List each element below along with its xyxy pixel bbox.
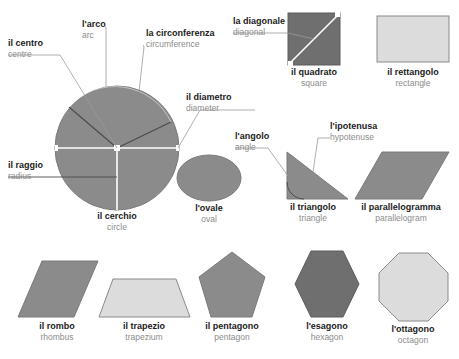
caption-trapezium-en: trapezium bbox=[123, 333, 165, 342]
callout-arc-en: arc bbox=[82, 31, 106, 40]
callout-circumference-en: circumference bbox=[146, 40, 215, 49]
diagonal-tick-bottom bbox=[288, 61, 293, 66]
callout-angle-it: l'angolo bbox=[235, 132, 269, 141]
caption-rhombus-en: rhombus bbox=[39, 333, 75, 342]
oval-shape bbox=[177, 155, 241, 201]
hexagon-shape bbox=[295, 251, 359, 317]
caption-rectangle-en: rectangle bbox=[387, 79, 439, 88]
callout-hypotenuse-it: l'ipotenusa bbox=[330, 122, 377, 131]
caption-trapezium: il trapezio trapezium bbox=[123, 322, 165, 342]
caption-octagon: l'ottagono octagon bbox=[391, 325, 434, 345]
callout-centre-en: centre bbox=[8, 50, 43, 59]
caption-trapezium-it: il trapezio bbox=[123, 322, 165, 331]
octagon-shape bbox=[379, 253, 448, 321]
callout-angle-en: angle bbox=[235, 143, 269, 152]
callout-diagonal-it: la diagonale bbox=[233, 17, 285, 26]
caption-parallelogram-en: parallelogram bbox=[361, 214, 441, 223]
caption-pentagon: il pentagono pentagon bbox=[205, 322, 259, 342]
trapezium-shape bbox=[99, 279, 190, 317]
caption-triangle-it: il triangolo bbox=[290, 203, 336, 212]
parallelogram-shape bbox=[355, 152, 449, 199]
callout-hypotenuse-en: hypotenuse bbox=[330, 133, 377, 142]
callout-arc-it: l'arco bbox=[82, 20, 106, 29]
diameter-tick-left bbox=[55, 145, 58, 151]
caption-circle-it: il cerchio bbox=[97, 212, 137, 221]
caption-circle-en: circle bbox=[97, 223, 137, 232]
callout-angle: l'angolo angle bbox=[235, 132, 269, 152]
callout-hypotenuse: l'ipotenusa hypotenuse bbox=[330, 122, 377, 142]
callout-radius: il raggio radius bbox=[8, 161, 43, 181]
caption-parallelogram-it: il parallelogramma bbox=[361, 203, 441, 212]
callout-arc: l'arco arc bbox=[82, 20, 106, 40]
caption-rectangle: il rettangolo rectangle bbox=[387, 68, 439, 88]
caption-triangle-en: triangle bbox=[290, 214, 336, 223]
caption-circle: il cerchio circle bbox=[97, 212, 137, 232]
callout-diameter-en: diameter bbox=[186, 104, 232, 113]
leader-angle bbox=[235, 148, 288, 176]
rectangle-shape bbox=[377, 16, 449, 62]
callout-centre-it: il centro bbox=[8, 39, 43, 48]
callout-diagonal: la diagonale diagonal bbox=[233, 17, 285, 37]
rhombus-shape bbox=[18, 261, 98, 317]
shapes-layer bbox=[0, 0, 459, 359]
callout-circumference-it: la circonferenza bbox=[146, 29, 215, 38]
caption-rhombus: il rombo rhombus bbox=[39, 322, 75, 342]
caption-square: il quadrato square bbox=[291, 68, 337, 88]
caption-octagon-it: l'ottagono bbox=[391, 325, 434, 334]
diameter-tick-right bbox=[176, 145, 179, 151]
diagram-canvas: l'arco arc la circonferenza circumferenc… bbox=[0, 0, 459, 359]
callout-diameter-it: il diametro bbox=[186, 93, 232, 102]
caption-square-en: square bbox=[291, 79, 337, 88]
caption-pentagon-it: il pentagono bbox=[205, 322, 259, 331]
caption-octagon-en: octagon bbox=[391, 336, 434, 345]
caption-hexagon: l'esagono hexagon bbox=[306, 322, 348, 342]
callout-diagonal-en: diagonal bbox=[233, 28, 285, 37]
caption-pentagon-en: pentagon bbox=[205, 333, 259, 342]
caption-triangle: il triangolo triangle bbox=[290, 203, 336, 223]
caption-hexagon-en: hexagon bbox=[306, 333, 348, 342]
leader-hypotenuse bbox=[313, 138, 330, 172]
caption-oval: l'ovale oval bbox=[195, 204, 223, 224]
caption-rhombus-it: il rombo bbox=[39, 322, 75, 331]
caption-rectangle-it: il rettangolo bbox=[387, 68, 439, 77]
callout-centre: il centro centre bbox=[8, 39, 43, 59]
caption-parallelogram: il parallelogramma parallelogram bbox=[361, 203, 441, 223]
diagonal-tick-top bbox=[335, 12, 340, 17]
caption-oval-en: oval bbox=[195, 215, 223, 224]
callout-diameter: il diametro diameter bbox=[186, 93, 232, 113]
triangle-shape bbox=[287, 152, 348, 199]
caption-oval-it: l'ovale bbox=[195, 204, 223, 213]
pentagon-shape bbox=[199, 252, 265, 317]
caption-hexagon-it: l'esagono bbox=[306, 322, 348, 331]
callout-radius-it: il raggio bbox=[8, 161, 43, 170]
caption-square-it: il quadrato bbox=[291, 68, 337, 77]
leader-circumference bbox=[139, 45, 144, 92]
callout-radius-en: radius bbox=[8, 172, 43, 181]
callout-circumference: la circonferenza circumference bbox=[146, 29, 215, 49]
